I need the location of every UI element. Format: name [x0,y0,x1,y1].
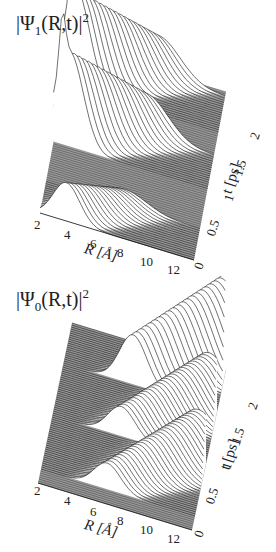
x-tick: 6 [90,504,97,520]
panel-title-psi0: |Ψ0(R,t)|2 [16,286,89,315]
panel-title-psi1: |Ψ1(R,t)|2 [16,10,89,39]
x-tick: 6 [90,236,97,252]
x-tick: 4 [64,493,71,509]
x-tick: 8 [117,513,124,529]
waterfall-plot-psi0 [0,276,276,552]
x-tick: 2 [34,217,41,233]
x-tick: 12 [167,531,180,547]
x-tick: 10 [140,522,153,538]
panel-psi1: |Ψ1(R,t)|2 R [Å] t [ps] 2 4 6 8 10 12 0 … [0,0,276,276]
x-tick: 10 [140,254,153,270]
waterfall-plot-psi1 [0,0,276,276]
panel-psi0: |Ψ0(R,t)|2 R [Å] t [ps] 2 4 6 8 10 12 0 … [0,276,276,552]
x-tick: 8 [117,245,124,261]
x-tick: 2 [34,483,41,499]
x-tick: 4 [64,227,71,243]
